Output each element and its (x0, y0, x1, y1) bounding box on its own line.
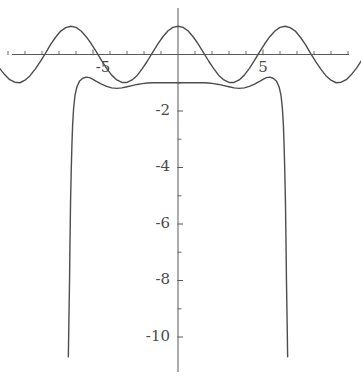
data-curves (0, 26, 361, 357)
y-tick-label-minus2: -2 (116, 103, 170, 118)
plot-canvas (0, 0, 361, 382)
y-tick-label-minus4: -4 (116, 159, 170, 174)
plot-figure: -5 5 -2 -4 -6 -8 -10 (0, 0, 361, 382)
x-tick-label-plus5: 5 (250, 60, 276, 75)
y-tick-label-minus6: -6 (116, 216, 170, 231)
x-tick-label-minus5: -5 (88, 60, 118, 75)
series-descending-branch-right (178, 77, 288, 357)
y-tick-label-minus8: -8 (116, 272, 170, 287)
y-tick-label-minus10: -10 (110, 329, 170, 344)
